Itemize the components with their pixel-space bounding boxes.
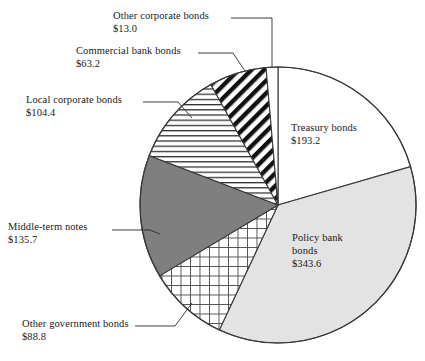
callout-middle-term-notes-value: $135.7	[8, 233, 88, 246]
pie-chart-svg	[0, 0, 425, 361]
pie-slices	[140, 67, 416, 343]
slice-label-treasury-bonds-value: $193.2	[291, 134, 357, 147]
callout-middle-term-notes-name: Middle-term notes	[8, 221, 88, 232]
slice-label-treasury-bonds-name: Treasury bonds	[291, 122, 357, 133]
callout-local-corporate-bonds-name: Local corporate bonds	[26, 94, 122, 105]
slice-label-policy-bank-bonds-value: $343.6	[292, 257, 343, 270]
slice-label-treasury-bonds: Treasury bonds $193.2	[291, 121, 357, 147]
callout-other-corporate-bonds: Other corporate bonds $13.0	[113, 9, 209, 35]
callout-other-corporate-bonds-name: Other corporate bonds	[113, 10, 209, 21]
callout-commercial-bank-bonds-value: $63.2	[76, 57, 181, 70]
callout-other-government-bonds-value: $88.8	[22, 330, 129, 343]
callout-commercial-bank-bonds: Commercial bank bonds $63.2	[76, 44, 181, 70]
callout-commercial-bank-bonds-name: Commercial bank bonds	[76, 45, 181, 56]
callout-local-corporate-bonds: Local corporate bonds $104.4	[26, 93, 122, 119]
callout-other-government-bonds-name: Other government bonds	[22, 318, 129, 329]
slice-label-policy-bank-bonds: Policy bank bonds $343.6	[292, 231, 343, 270]
callout-local-corporate-bonds-value: $104.4	[26, 106, 122, 119]
callout-middle-term-notes: Middle-term notes $135.7	[8, 220, 88, 246]
slice-label-policy-bank-bonds-name-line2: bonds	[292, 244, 343, 257]
slice-label-policy-bank-bonds-name-line1: Policy bank	[292, 232, 343, 243]
callout-other-corporate-bonds-value: $13.0	[113, 22, 209, 35]
pie-chart-figure: Other corporate bonds $13.0 Commercial b…	[0, 0, 425, 361]
leader-line-commercial-bank	[198, 53, 245, 71]
callout-other-government-bonds: Other government bonds $88.8	[22, 317, 129, 343]
